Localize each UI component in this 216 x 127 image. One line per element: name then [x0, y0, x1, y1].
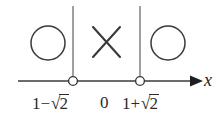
x-axis-label: x	[204, 71, 212, 89]
tick-label-right-radicand: 2	[149, 94, 159, 112]
tick-label-right-boundary: 1+√2	[122, 94, 159, 112]
tick-label-right-prefix: 1	[122, 94, 131, 113]
middle-region-cross-icon	[93, 27, 120, 57]
tick-label-left-prefix: 1	[32, 94, 41, 113]
tick-label-right-radical-group: √2	[140, 94, 159, 112]
open-circle-marker-right	[136, 77, 145, 86]
left-region-circle-icon	[31, 26, 65, 60]
x-axis-arrowhead-icon	[190, 76, 203, 87]
tick-label-left-radicand: 2	[59, 94, 69, 112]
tick-label-left-operator: −	[41, 94, 51, 113]
number-line-diagram: 1−√2 0 1+√2 x	[0, 0, 216, 127]
open-circle-marker-left	[69, 77, 78, 86]
tick-label-right-operator: +	[131, 94, 141, 113]
right-region-circle-icon	[151, 26, 185, 60]
tick-label-left-radical-group: √2	[50, 94, 69, 112]
tick-label-left-boundary: 1−√2	[32, 94, 69, 112]
tick-label-origin: 0	[100, 94, 109, 111]
